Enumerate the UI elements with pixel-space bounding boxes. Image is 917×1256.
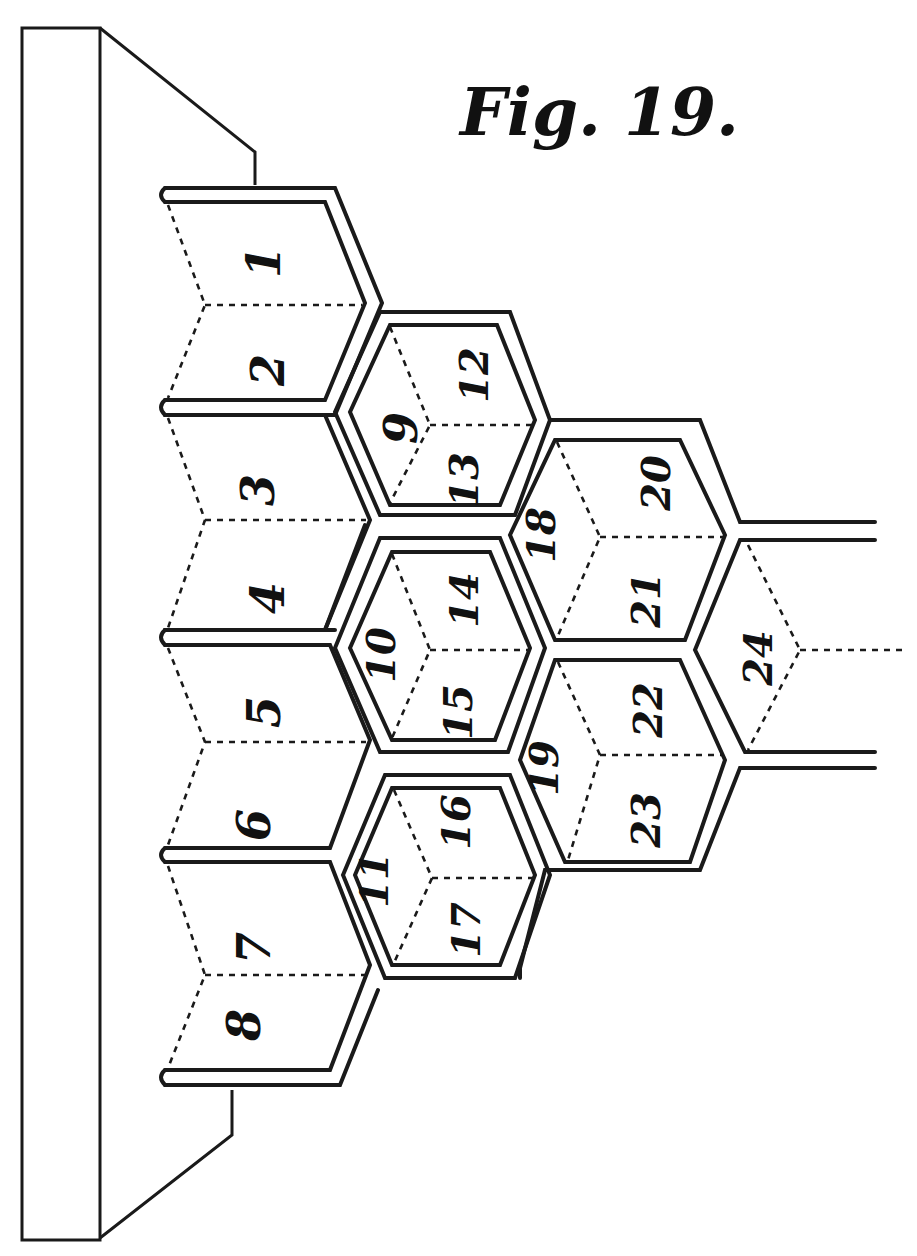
cell-label-7: 7 (227, 932, 281, 964)
cell-label-9: 9 (374, 412, 428, 444)
column-4-cell (695, 540, 905, 752)
hexagonal-cell-diagram: Fig. 19. (0, 0, 917, 1256)
figure-title: Fig. 19. (458, 73, 739, 151)
cell-label-21: 21 (622, 572, 669, 629)
cell-label-19: 19 (520, 740, 567, 796)
cell-label-24: 24 (734, 630, 781, 687)
cell-label-13: 13 (440, 452, 487, 508)
cell-label-22: 22 (624, 682, 671, 739)
cell-label-6: 6 (227, 809, 281, 841)
cell-label-4: 4 (241, 582, 295, 614)
cell-label-17: 17 (442, 902, 489, 958)
cell-label-23: 23 (622, 792, 669, 849)
cell-label-8: 8 (217, 1009, 271, 1042)
cell-label-2: 2 (241, 354, 295, 387)
backplate (22, 28, 255, 1240)
cell-label-1: 1 (237, 246, 291, 278)
column-3-cells (510, 420, 875, 978)
cell-label-3: 3 (231, 474, 285, 506)
cell-label-14: 14 (440, 572, 487, 628)
cell-label-10: 10 (357, 627, 404, 683)
cell-label-16: 16 (432, 794, 479, 850)
cell-label-5: 5 (237, 696, 291, 728)
cell-label-12: 12 (450, 347, 497, 403)
cell-label-20: 20 (632, 455, 679, 512)
cell-label-11: 11 (350, 852, 397, 908)
cell-label-18: 18 (517, 507, 564, 563)
cell-label-15: 15 (434, 684, 481, 740)
